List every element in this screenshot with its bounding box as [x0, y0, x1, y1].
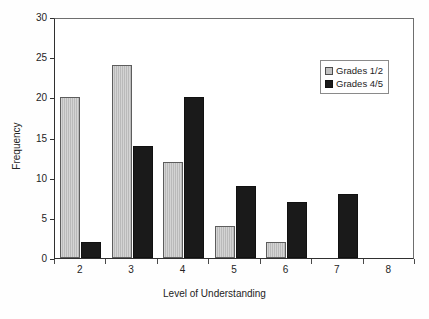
x-axis-tick-mark [363, 259, 364, 264]
x-axis-tick-mark [208, 259, 209, 264]
bar [287, 202, 307, 258]
bar [112, 65, 132, 258]
bar-group [215, 19, 256, 258]
legend-label: Grades 4/5 [336, 78, 383, 89]
legend-item: Grades 1/2 [325, 64, 383, 77]
bar [236, 186, 256, 258]
bar-group [369, 19, 410, 258]
bar [81, 242, 101, 258]
bar-group [60, 19, 101, 258]
legend-swatch-icon [325, 80, 333, 88]
bar-group [317, 19, 358, 258]
x-axis-tick-label: 6 [265, 264, 305, 275]
bar [338, 194, 358, 258]
y-axis-tick-label: 15 [0, 133, 54, 145]
bar [133, 146, 153, 258]
bar-group [112, 19, 153, 258]
y-axis-tick-label: 0 [0, 253, 54, 265]
x-axis-tick-label: 3 [111, 264, 151, 275]
bar-group [266, 19, 307, 258]
x-axis-tick-label: 8 [368, 264, 408, 275]
bar [184, 97, 204, 258]
plot-area [54, 18, 414, 259]
legend: Grades 1/2Grades 4/5 [320, 60, 389, 94]
x-axis-tick-mark [260, 259, 261, 264]
y-axis-tick-label: 5 [0, 213, 54, 225]
x-axis-tick-label: 5 [214, 264, 254, 275]
legend-item: Grades 4/5 [325, 77, 383, 90]
x-axis-tick-label: 2 [60, 264, 100, 275]
bars-layer [55, 19, 413, 258]
x-axis-tick-mark [311, 259, 312, 264]
bar-chart-figure: Frequency 051015202530 2345678 Level of … [0, 0, 429, 319]
legend-swatch-icon [325, 67, 333, 75]
x-axis-tick-mark [54, 259, 55, 264]
bar [60, 97, 80, 258]
x-axis-tick-mark [414, 259, 415, 264]
x-axis-title: Level of Understanding [0, 288, 429, 299]
bar [163, 162, 183, 258]
bar-group [163, 19, 204, 258]
x-axis-tick-mark [157, 259, 158, 264]
y-axis-tick-label: 30 [0, 12, 54, 24]
y-axis-tick-label: 10 [0, 173, 54, 185]
x-axis-tick-mark [105, 259, 106, 264]
y-axis-tick-label: 20 [0, 92, 54, 104]
bar [215, 226, 235, 258]
bar [266, 242, 286, 258]
y-axis-tick-label: 25 [0, 52, 54, 64]
x-axis-tick-label: 4 [163, 264, 203, 275]
legend-label: Grades 1/2 [336, 65, 383, 76]
x-axis-tick-label: 7 [317, 264, 357, 275]
